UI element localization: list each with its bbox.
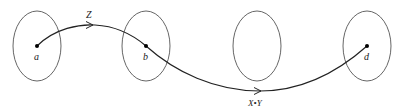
diagram-svg: a b d Z X•Y — [0, 0, 405, 111]
diagram-canvas: a b d Z X•Y — [0, 0, 405, 111]
arrow-curve-z — [37, 25, 146, 46]
point-label-d: d — [364, 51, 370, 62]
arrow-label-z: Z — [86, 9, 92, 20]
region-ellipse-3 — [233, 11, 281, 81]
point-label-b: b — [143, 51, 148, 62]
point-b — [144, 44, 148, 48]
point-d — [365, 44, 369, 48]
point-label-a: a — [34, 51, 39, 62]
point-a — [35, 44, 39, 48]
arrow-curve-xy — [146, 46, 367, 91]
arrow-label-xy: X•Y — [247, 98, 263, 108]
